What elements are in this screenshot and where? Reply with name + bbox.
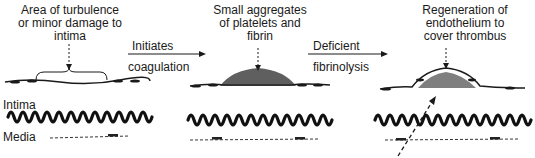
elastic-lamina-3	[375, 115, 531, 125]
cell-nucleus	[10, 80, 20, 83]
cell-nucleus	[313, 83, 323, 86]
arrowhead-icon	[381, 51, 388, 57]
cell-nucleus	[505, 86, 515, 89]
platelet-aggregate	[220, 68, 296, 86]
cell-nucleus	[468, 79, 476, 82]
cell-nucleus	[191, 84, 201, 87]
media-nucleus	[490, 137, 500, 140]
media-nucleus	[295, 137, 305, 140]
arrowhead-icon	[429, 96, 436, 105]
elastic-lamina-1	[8, 112, 152, 122]
diagram-canvas	[0, 0, 535, 158]
media-nucleus	[396, 138, 406, 141]
brace	[36, 68, 107, 80]
arrowhead-icon	[199, 51, 206, 57]
cell-nucleus	[113, 79, 123, 82]
cell-nucleus	[381, 87, 391, 90]
media-nucleus	[108, 134, 118, 137]
cell-nucleus	[416, 79, 424, 82]
cell-nucleus	[130, 79, 140, 82]
cell-nucleus	[208, 83, 218, 86]
cell-nucleus	[297, 83, 307, 86]
thrombus-pointer	[398, 102, 432, 156]
elastic-lamina-2	[188, 115, 332, 125]
cell-nucleus	[27, 79, 37, 82]
endothelium-1	[5, 77, 150, 83]
media-nucleus	[212, 137, 222, 140]
